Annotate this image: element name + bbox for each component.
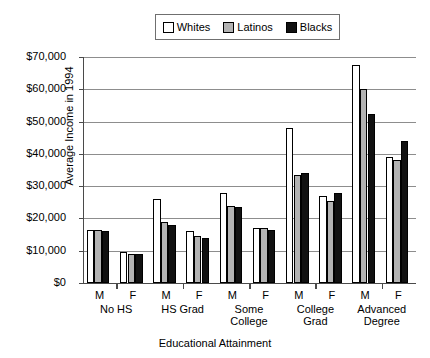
bar-blacks-some-college-f <box>268 230 276 283</box>
legend-item-whites: Whites <box>163 22 211 33</box>
legend-swatch-latinos <box>223 22 234 33</box>
bar-blacks-advanced-degree-f <box>401 141 409 283</box>
x-group-label: HS Grad <box>149 303 215 315</box>
bar-blacks-college-grad-f <box>334 193 342 283</box>
x-axis-title: Educational Attainment <box>0 337 430 349</box>
x-sub-label: M <box>349 289 382 301</box>
y-tick-label: $60,000 <box>26 83 66 94</box>
x-sub-label: F <box>183 289 216 301</box>
bar-whites-no-hs-f <box>120 252 128 283</box>
y-tick-label: $70,000 <box>26 51 66 62</box>
bar-blacks-no-hs-m <box>102 231 110 283</box>
bars-layer <box>83 57 415 283</box>
x-group-label: CollegeGrad <box>282 303 348 327</box>
y-tick-label: $20,000 <box>26 212 66 223</box>
legend-item-latinos: Latinos <box>223 22 272 33</box>
bar-blacks-hs-grad-f <box>202 238 210 283</box>
bar-blacks-some-college-m <box>235 207 243 283</box>
y-tick-label: $40,000 <box>26 148 66 159</box>
x-group-label: AdvancedDegree <box>349 303 415 327</box>
bar-blacks-advanced-degree-m <box>368 114 376 284</box>
bar-blacks-no-hs-f <box>135 254 143 283</box>
bar-latinos-no-hs-m <box>94 230 102 283</box>
x-sub-label: F <box>315 289 348 301</box>
y-tick-label: $0 <box>54 277 66 288</box>
bar-latinos-hs-grad-m <box>161 222 169 283</box>
y-axis-tick-labels: $0$10,000$20,000$30,000$40,000$50,000$60… <box>0 0 83 358</box>
legend-swatch-whites <box>163 22 174 33</box>
bar-whites-advanced-degree-f <box>386 157 394 283</box>
x-sub-label: M <box>282 289 315 301</box>
x-sub-label: F <box>249 289 282 301</box>
y-tick-label: $10,000 <box>26 245 66 256</box>
bar-whites-hs-grad-m <box>153 199 161 283</box>
bar-latinos-advanced-degree-f <box>393 160 401 283</box>
bar-latinos-college-grad-f <box>327 201 335 283</box>
bar-blacks-hs-grad-m <box>168 225 176 283</box>
bar-whites-hs-grad-f <box>186 231 194 283</box>
y-tick-label: $30,000 <box>26 180 66 191</box>
x-group-label: No HS <box>83 303 149 315</box>
bar-latinos-hs-grad-f <box>194 236 202 283</box>
x-sub-label: M <box>149 289 182 301</box>
bar-whites-college-grad-f <box>319 196 327 283</box>
bar-latinos-some-college-f <box>260 228 268 283</box>
legend-swatch-blacks <box>286 22 297 33</box>
bar-whites-college-grad-m <box>286 128 294 283</box>
bar-blacks-college-grad-m <box>301 173 309 283</box>
bar-whites-no-hs-m <box>87 230 95 283</box>
legend-label-whites: Whites <box>177 22 211 33</box>
bar-chart: Whites Latinos Blacks Average Income in … <box>0 0 430 358</box>
legend-label-blacks: Blacks <box>300 22 332 33</box>
x-sub-label: M <box>216 289 249 301</box>
bar-latinos-college-grad-m <box>294 175 302 283</box>
legend-item-blacks: Blacks <box>286 22 332 33</box>
bar-whites-some-college-m <box>220 193 228 283</box>
chart-legend: Whites Latinos Blacks <box>155 14 340 40</box>
bar-latinos-no-hs-f <box>128 254 136 283</box>
bar-latinos-some-college-m <box>227 206 235 283</box>
bar-whites-advanced-degree-m <box>352 65 360 283</box>
y-tick-label: $50,000 <box>26 116 66 127</box>
x-sub-label: F <box>116 289 149 301</box>
bar-latinos-advanced-degree-m <box>360 89 368 283</box>
bar-whites-some-college-f <box>253 228 261 283</box>
x-sub-label: F <box>382 289 415 301</box>
x-group-label: SomeCollege <box>216 303 282 327</box>
x-sub-label: M <box>83 289 116 301</box>
legend-label-latinos: Latinos <box>237 22 272 33</box>
